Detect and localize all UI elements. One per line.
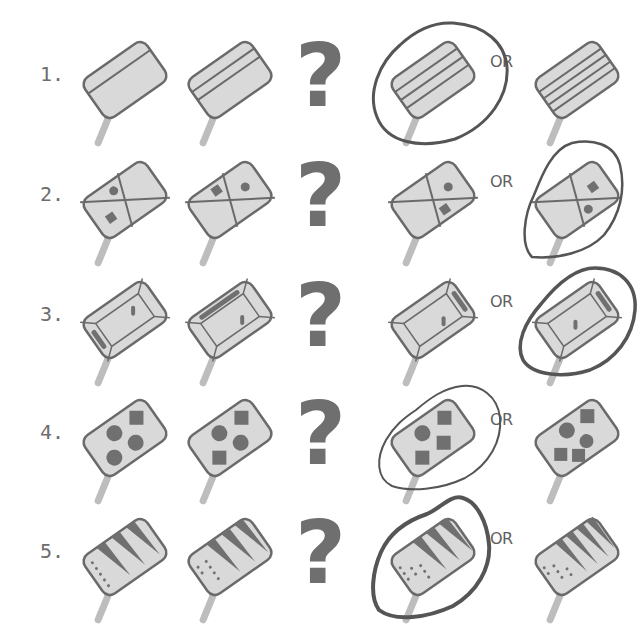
option-shapes-c-icon[interactable] <box>378 383 488 493</box>
option-shapes-d-icon[interactable] <box>522 383 632 493</box>
or-label: OR <box>490 172 513 191</box>
puzzle-row-5: 5. ? OR <box>0 497 642 617</box>
popsicle-quadrant-b-icon <box>175 145 285 255</box>
question-mark: ? <box>295 146 346 246</box>
popsicle-triangles-a-icon <box>70 502 180 612</box>
question-mark: ? <box>295 26 346 126</box>
row-number: 1. <box>40 62 64 86</box>
question-mark: ? <box>295 503 346 603</box>
popsicle-shapes-b-icon <box>175 383 285 493</box>
row-number: 2. <box>40 182 64 206</box>
puzzle-row-1: 1. ? OR <box>0 20 642 140</box>
popsicle-box-a-icon <box>70 265 180 375</box>
option-triangles-c-icon[interactable] <box>378 502 488 612</box>
puzzle-row-3: 3. ? OR <box>0 260 642 380</box>
puzzle-row-2: 2. ? OR <box>0 140 642 260</box>
popsicle-2-stripes-icon <box>175 25 285 135</box>
popsicle-shapes-a-icon <box>70 383 180 493</box>
or-label: OR <box>490 292 513 311</box>
option-quadrant-c-icon[interactable] <box>378 145 488 255</box>
popsicle-quadrant-a-icon <box>70 145 180 255</box>
row-number: 4. <box>40 420 64 444</box>
row-number: 3. <box>40 302 64 326</box>
option-quadrant-d-icon[interactable] <box>522 145 632 255</box>
popsicle-box-b-icon <box>175 265 285 375</box>
option-3-stripes-icon[interactable] <box>378 25 488 135</box>
row-number: 5. <box>40 539 64 563</box>
or-label: OR <box>490 529 513 548</box>
option-4-stripes-icon[interactable] <box>522 25 632 135</box>
option-box-d-icon[interactable] <box>522 265 632 375</box>
or-label: OR <box>490 52 513 71</box>
option-box-c-icon[interactable] <box>378 265 488 375</box>
or-label: OR <box>490 410 513 429</box>
popsicle-1-stripe-icon <box>70 25 180 135</box>
question-mark: ? <box>295 384 346 484</box>
question-mark: ? <box>295 266 346 366</box>
puzzle-row-4: 4. ? OR <box>0 378 642 498</box>
option-triangles-d-icon[interactable] <box>522 502 632 612</box>
popsicle-triangles-b-icon <box>175 502 285 612</box>
